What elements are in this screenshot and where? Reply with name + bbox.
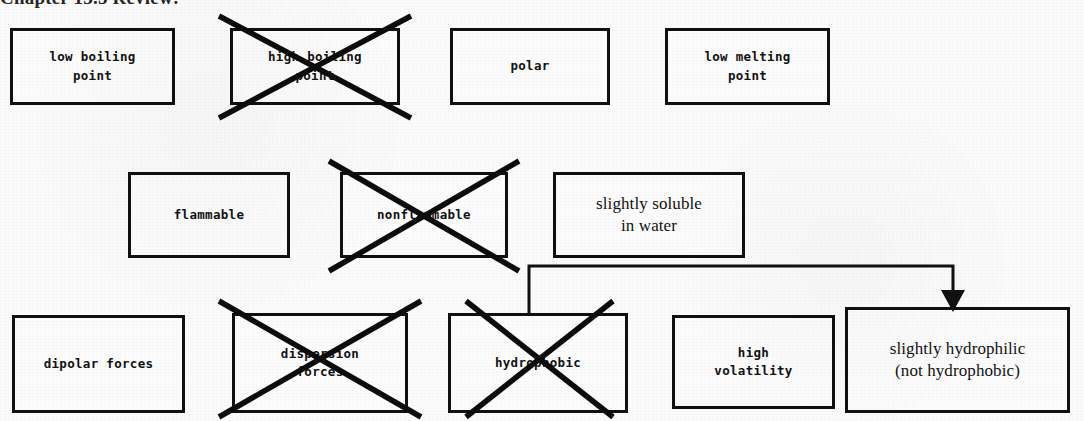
node-nonflammable[interactable]: nonflammable [340,172,508,258]
node-flammable[interactable]: flammable [128,172,290,258]
node-label: nonflammable [373,206,475,224]
node-label: low melting point [700,48,794,84]
node-dispersion-forces[interactable]: dispersion forces [232,313,408,413]
node-hydrophobic[interactable]: hydrophobic [448,313,628,413]
worksheet-page: Chapter 13.5 Review: low boiling point h… [0,0,1084,421]
node-high-boiling-point[interactable]: high boiling point [230,28,400,105]
node-label: dipolar forces [40,355,158,373]
node-label-line2: (not hydrophobic) [895,361,1020,380]
node-label: hydrophobic [491,354,585,372]
node-label: high boiling point [264,48,366,84]
node-label-line2: point [73,68,112,83]
node-label: high volatility [710,344,796,380]
node-label-line1: slightly soluble [596,194,702,213]
node-label: flammable [170,206,248,224]
node-label: dispersion forces [277,345,363,381]
node-label-line2: point [728,68,767,83]
node-label-line1: high [738,345,769,360]
node-label: polar [506,57,553,75]
node-slightly-hydrophilic[interactable]: slightly hydrophilic (not hydrophobic) [845,307,1070,413]
node-label-line1: dispersion [281,346,359,361]
node-low-melting-point[interactable]: low melting point [665,28,830,105]
node-high-volatility[interactable]: high volatility [672,315,835,409]
node-label-line1: low melting [704,49,790,64]
node-label: slightly hydrophilic (not hydrophobic) [886,338,1030,382]
node-slightly-soluble-in-water[interactable]: slightly soluble in water [553,172,745,258]
node-label-line2: forces [297,364,344,379]
node-label-line2: in water [621,216,677,235]
node-polar[interactable]: polar [450,28,610,105]
node-label-line1: slightly hydrophilic [890,339,1026,358]
node-label-line1: low boiling [49,49,135,64]
node-low-boiling-point[interactable]: low boiling point [10,28,175,105]
node-label: low boiling point [45,48,139,84]
node-label-line2: point [295,68,334,83]
page-title: Chapter 13.5 Review: [0,0,179,9]
node-label: slightly soluble in water [592,193,706,237]
node-label-line2: volatility [714,363,792,378]
node-dipolar-forces[interactable]: dipolar forces [12,315,185,413]
node-label-line1: high boiling [268,49,362,64]
